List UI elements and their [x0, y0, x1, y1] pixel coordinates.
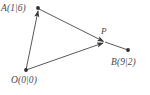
point-marker-O: [24, 68, 28, 72]
point-label-P: P: [101, 27, 107, 36]
point-label-O: O(0|0): [11, 76, 37, 86]
point-marker-A: [36, 6, 40, 10]
vector-diagram-figure: A(1|6) O(0|0) B(9|2) P: [0, 0, 150, 95]
segment-O-to-A: [26, 11, 38, 70]
segment-O-to-P: [26, 43, 103, 70]
segment-A-to-P: [39, 9, 104, 41]
point-label-B: B(9|2): [111, 58, 136, 68]
point-marker-B: [126, 48, 130, 52]
point-label-A: A(1|6): [1, 4, 26, 14]
segment-P-to-B: [105, 42, 128, 50]
